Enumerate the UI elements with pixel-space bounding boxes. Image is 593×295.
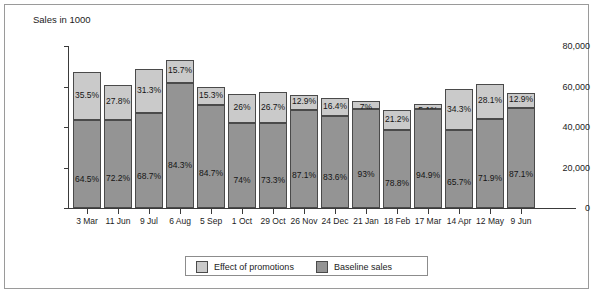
bar-segment-baseline[interactable] <box>476 119 504 208</box>
legend-item[interactable]: Baseline sales <box>316 260 392 273</box>
bar-label-baseline: 94.9% <box>414 171 442 180</box>
bar-segment-baseline[interactable] <box>290 110 318 208</box>
bar-label-baseline: 72.2% <box>104 174 132 183</box>
bar-segment-baseline[interactable] <box>228 123 256 208</box>
bar-group[interactable]: 35.5%64.5% <box>73 72 101 208</box>
bar-segment-baseline[interactable] <box>73 120 101 208</box>
x-tick-mark <box>180 209 181 214</box>
bar-group[interactable]: 26.7%73.3% <box>259 92 287 208</box>
bar-label-promotions: 15.3% <box>197 91 225 100</box>
y-tick-mark <box>64 168 69 169</box>
x-tick-mark <box>459 209 460 214</box>
x-tick-mark <box>211 209 212 214</box>
legend-swatch-icon <box>316 261 328 273</box>
x-tick-mark <box>490 209 491 214</box>
bar-segment-baseline[interactable] <box>445 130 473 208</box>
bar-label-baseline: 87.1% <box>507 170 535 179</box>
bar-label-promotions: 27.8% <box>104 97 132 106</box>
legend-label: Effect of promotions <box>214 262 294 272</box>
bar-label-baseline: 64.5% <box>73 175 101 184</box>
bar-label-promotions: 26.7% <box>259 103 287 112</box>
chart-legend: Effect of promotionsBaseline sales <box>185 256 428 276</box>
x-tick-mark <box>366 209 367 214</box>
bar-group[interactable]: 34.3%65.7% <box>445 89 473 208</box>
x-tick-mark <box>397 209 398 214</box>
bar-segment-baseline[interactable] <box>104 120 132 208</box>
bar-segment-baseline[interactable] <box>135 113 163 208</box>
legend-label: Baseline sales <box>334 262 392 272</box>
y-tick-mark <box>64 127 69 128</box>
x-tick-mark <box>273 209 274 214</box>
y-tick-mark <box>64 87 69 88</box>
bar-group[interactable]: 15.3%84.7% <box>197 87 225 208</box>
x-tick-mark <box>304 209 305 214</box>
bar-label-promotions: 31.3% <box>135 86 163 95</box>
bar-segment-baseline[interactable] <box>383 130 411 208</box>
x-tick-mark <box>242 209 243 214</box>
bar-label-baseline: 78.8% <box>383 179 411 188</box>
x-tick-mark <box>87 209 88 214</box>
bar-label-promotions: 15.7% <box>166 66 194 75</box>
x-tick-mark <box>428 209 429 214</box>
y-tick-label: 80,000 <box>536 42 590 51</box>
x-tick-mark <box>118 209 119 214</box>
bar-label-baseline: 84.3% <box>166 161 194 170</box>
legend-swatch-icon <box>196 261 208 273</box>
bar-label-promotions: 21.2% <box>383 115 411 124</box>
bar-label-promotions: 16.4% <box>321 102 349 111</box>
bar-group[interactable]: 7%93% <box>352 101 380 208</box>
bar-group[interactable]: 12.9%87.1% <box>290 95 318 208</box>
bar-label-baseline: 73.3% <box>259 176 287 185</box>
bar-segment-baseline[interactable] <box>166 83 194 208</box>
bar-group[interactable]: 16.4%83.6% <box>321 98 349 208</box>
bar-segment-baseline[interactable] <box>507 108 535 208</box>
x-tick-mark <box>149 209 150 214</box>
plot-area: 020,00040,00060,00080,000 3 Mar11 Jun9 J… <box>5 5 590 290</box>
bar-label-promotions: 12.9% <box>507 95 535 104</box>
bar-label-baseline: 83.6% <box>321 173 349 182</box>
bar-group[interactable]: 31.3%68.7% <box>135 69 163 208</box>
y-tick-label: 20,000 <box>536 164 590 173</box>
bar-label-baseline: 68.7% <box>135 172 163 181</box>
bar-segment-baseline[interactable] <box>352 109 380 208</box>
y-tick-mark <box>64 208 69 209</box>
bar-group[interactable]: 21.2%78.8% <box>383 110 411 208</box>
bar-label-promotions: 34.3% <box>445 105 473 114</box>
bar-segment-baseline[interactable] <box>259 123 287 208</box>
y-tick-label: 0 <box>536 204 590 213</box>
bar-label-baseline: 74% <box>228 176 256 185</box>
bar-segment-baseline[interactable] <box>197 105 225 208</box>
legend-item[interactable]: Effect of promotions <box>196 260 294 273</box>
bar-group[interactable]: 26%74% <box>228 94 256 208</box>
bar-label-promotions: 28.1% <box>476 96 504 105</box>
bar-label-baseline: 93% <box>352 170 380 179</box>
bar-group[interactable]: 28.1%71.9% <box>476 84 504 208</box>
y-tick-label: 60,000 <box>536 83 590 92</box>
bar-label-baseline: 84.7% <box>197 169 225 178</box>
bar-segment-baseline[interactable] <box>321 116 349 208</box>
x-axis-line <box>68 208 576 209</box>
bar-label-promotions: 35.5% <box>73 91 101 100</box>
x-tick-mark <box>335 209 336 214</box>
bar-label-baseline: 87.1% <box>290 171 318 180</box>
chart-frame: Sales in 1000 020,00040,00060,00080,000 … <box>4 4 589 289</box>
x-tick-label: 9 Jun <box>496 216 546 226</box>
y-tick-mark <box>64 46 69 47</box>
bar-group[interactable]: 12.9%87.1% <box>507 93 535 208</box>
bar-group[interactable]: 27.8%72.2% <box>104 85 132 208</box>
bar-label-promotions: 12.9% <box>290 97 318 106</box>
bar-label-baseline: 65.7% <box>445 178 473 187</box>
bar-group[interactable]: 15.7%84.3% <box>166 60 194 208</box>
bar-label-baseline: 71.9% <box>476 174 504 183</box>
y-tick-label: 40,000 <box>536 123 590 132</box>
x-tick-mark <box>521 209 522 214</box>
bar-group[interactable]: 5.1%94.9% <box>414 104 442 208</box>
bar-label-promotions: 26% <box>228 103 256 112</box>
bar-segment-baseline[interactable] <box>414 109 442 208</box>
